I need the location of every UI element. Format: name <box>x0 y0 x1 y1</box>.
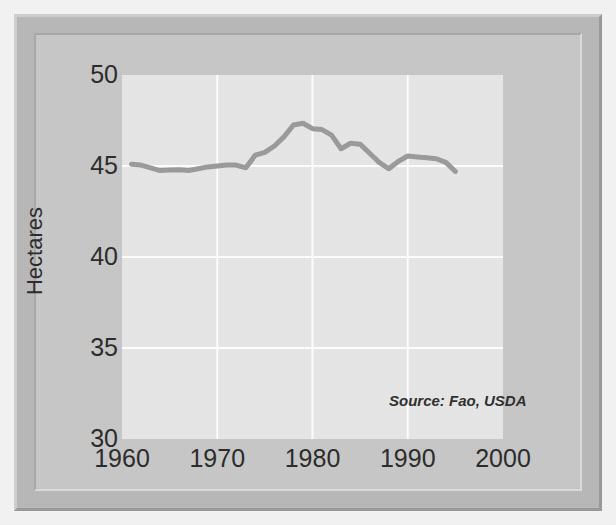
line-chart-svg <box>122 75 503 439</box>
x-tick-label: 1980 <box>268 446 358 471</box>
y-tick-label: 40 <box>68 244 118 269</box>
x-tick-label: 1990 <box>363 446 453 471</box>
x-tick-label: 2000 <box>458 446 548 471</box>
x-axis-tick-labels: 19601970198019902000 <box>0 446 616 480</box>
x-tick-label: 1970 <box>172 446 262 471</box>
source-annotation: Source: Fao, USDA <box>389 392 527 409</box>
y-tick-label: 35 <box>68 335 118 360</box>
y-axis-title: Hectares <box>22 191 48 311</box>
chart-figure: 3035404550 19601970198019902000 Hectares… <box>0 0 616 525</box>
plot-area <box>122 75 503 439</box>
y-tick-label: 45 <box>68 153 118 178</box>
y-tick-label: 50 <box>68 62 118 87</box>
x-tick-label: 1960 <box>77 446 167 471</box>
